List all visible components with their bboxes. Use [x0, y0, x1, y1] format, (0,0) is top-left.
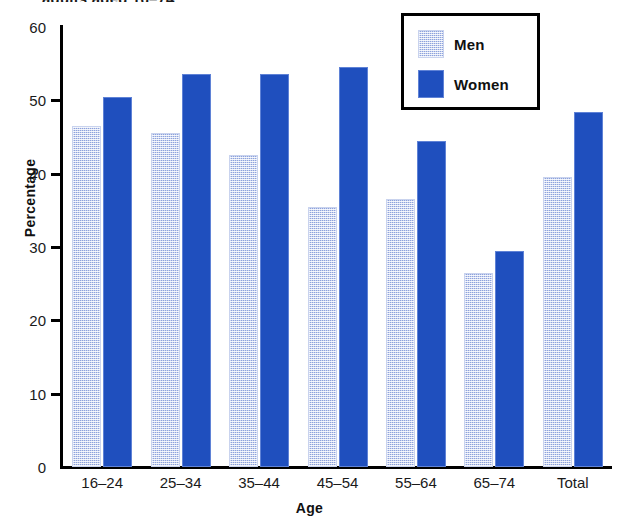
y-axis-tick-label: 10 [16, 385, 46, 402]
bar-men-35-44[interactable] [229, 155, 258, 467]
y-axis-tick-label: 20 [16, 312, 46, 329]
bar-women-45-54[interactable] [339, 67, 368, 467]
bar-men-65-74[interactable] [464, 273, 493, 467]
bar-men-45-54[interactable] [308, 207, 337, 467]
x-axis-tick-label: 25–34 [141, 474, 219, 491]
bar-men-25-34[interactable] [151, 133, 180, 467]
y-axis-tick-40 [51, 173, 61, 176]
y-axis-title: Percentage [22, 138, 38, 258]
bar-women-16-24[interactable] [103, 97, 132, 467]
bar-women-65-74[interactable] [495, 251, 524, 467]
legend-item-women[interactable]: Women [418, 70, 509, 98]
y-axis-tick-label: 60 [16, 19, 46, 36]
legend-swatch-women [418, 70, 444, 98]
x-axis-tick-label: 45–54 [298, 474, 376, 491]
x-axis-tick-label: 65–74 [455, 474, 533, 491]
x-axis-tick-label: 16–24 [63, 474, 141, 491]
y-axis-tick-label: 50 [16, 92, 46, 109]
page-title: adults aged 16–74 [42, 0, 175, 2]
legend-swatch-men [418, 30, 444, 58]
legend-box: MenWomen [401, 13, 540, 110]
bar-women-Total[interactable] [574, 112, 603, 467]
x-axis-tick-label: Total [534, 474, 612, 491]
x-axis-tick-label: 55–64 [377, 474, 455, 491]
bar-women-25-34[interactable] [182, 74, 211, 467]
y-axis-tick-20 [51, 319, 61, 322]
y-axis-tick-labels: 6050403020100 [8, 0, 46, 530]
bar-women-55-64[interactable] [417, 141, 446, 467]
legend-item-men[interactable]: Men [418, 30, 485, 58]
legend-label: Men [454, 36, 485, 53]
x-axis-title: Age [0, 500, 619, 516]
chart-page: adults aged 16–74 6050403020100 Percenta… [0, 0, 619, 530]
legend-label: Women [454, 76, 509, 93]
y-axis-tick-30 [51, 246, 61, 249]
bar-men-Total[interactable] [543, 177, 572, 467]
bar-men-16-24[interactable] [72, 126, 101, 467]
y-axis-tick-50 [51, 99, 61, 102]
bar-women-35-44[interactable] [260, 74, 289, 467]
bar-men-55-64[interactable] [386, 199, 415, 467]
y-axis-tick-10 [51, 393, 61, 396]
y-axis-tick-label: 0 [16, 459, 46, 476]
x-axis-tick-label: 35–44 [220, 474, 298, 491]
